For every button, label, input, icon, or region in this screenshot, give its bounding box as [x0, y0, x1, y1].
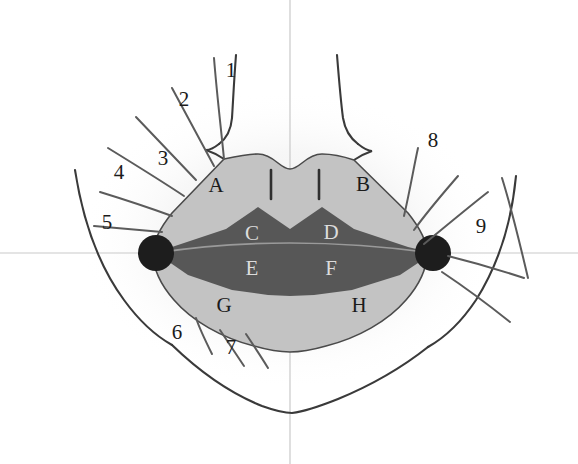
- index-label-6: 6: [172, 322, 183, 343]
- index-label-5: 5: [102, 212, 113, 233]
- diagram-canvas: [0, 0, 578, 464]
- zone-label-a: A: [208, 175, 223, 196]
- index-label-3: 3: [158, 148, 169, 169]
- index-label-4: 4: [114, 162, 125, 183]
- index-label-2: 2: [179, 89, 190, 110]
- lip-anatomy-diagram: A B C D E F G H 1 2 3 4 5 6 7 8 9: [0, 0, 578, 464]
- zone-label-g: G: [216, 295, 231, 316]
- left-commissure-marker: [138, 235, 174, 271]
- zone-label-d: D: [323, 222, 338, 243]
- zone-label-h: H: [351, 295, 366, 316]
- index-label-9: 9: [476, 216, 487, 237]
- index-label-1: 1: [226, 60, 237, 81]
- zone-label-c: C: [245, 223, 259, 244]
- zone-label-e: E: [246, 258, 259, 279]
- right-commissure-marker: [415, 235, 451, 271]
- zone-label-b: B: [356, 174, 370, 195]
- zone-label-f: F: [325, 258, 337, 279]
- index-label-7: 7: [226, 337, 237, 358]
- index-label-8: 8: [428, 130, 439, 151]
